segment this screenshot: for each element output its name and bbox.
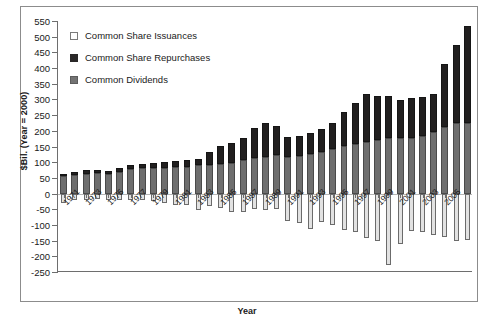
bar-segment-dividends[interactable] [150,168,157,194]
bar-segment-repurchases[interactable] [83,170,90,174]
bar-segment-dividends[interactable] [105,174,112,193]
bar-group[interactable] [296,21,303,271]
bar-segment-dividends[interactable] [352,144,359,194]
bar-segment-repurchases[interactable] [172,161,179,167]
bar-group[interactable] [441,21,448,271]
bar-group[interactable] [430,21,437,271]
bar-segment-repurchases[interactable] [307,133,314,154]
bar-segment-repurchases[interactable] [374,96,381,140]
bar-segment-dividends[interactable] [240,160,247,194]
bar-group[interactable] [228,21,235,271]
bar-group[interactable] [262,21,269,271]
bar-segment-repurchases[interactable] [341,112,348,146]
bar-segment-dividends[interactable] [217,164,224,194]
bar-segment-issuances[interactable] [465,194,470,240]
bar-segment-dividends[interactable] [408,138,415,194]
legend-item[interactable]: Common Share Issuances [70,30,210,41]
bar-segment-repurchases[interactable] [240,138,247,160]
bar-segment-dividends[interactable] [385,138,392,193]
bar-segment-repurchases[interactable] [318,129,325,152]
bar-segment-repurchases[interactable] [296,136,303,156]
bar-segment-repurchases[interactable] [60,174,67,177]
bar-group[interactable] [464,21,471,271]
bar-group[interactable] [307,21,314,271]
bar-segment-repurchases[interactable] [139,164,146,168]
bar-segment-dividends[interactable] [307,154,314,194]
bar-segment-repurchases[interactable] [441,64,448,127]
bar-segment-repurchases[interactable] [273,126,280,155]
bar-segment-repurchases[interactable] [161,162,168,168]
bar-group[interactable] [273,21,280,271]
bar-segment-dividends[interactable] [172,167,179,193]
bar-segment-dividends[interactable] [374,140,381,194]
bar-segment-repurchases[interactable] [184,160,191,167]
bar-segment-dividends[interactable] [464,123,471,194]
bar-segment-repurchases[interactable] [71,172,78,175]
bar-segment-repurchases[interactable] [262,123,269,156]
bar-group[interactable] [318,21,325,271]
bar-segment-dividends[interactable] [430,132,437,193]
bar-segment-repurchases[interactable] [385,96,392,139]
bar-segment-repurchases[interactable] [352,103,359,144]
bar-segment-repurchases[interactable] [206,152,213,165]
bar-segment-dividends[interactable] [453,123,460,194]
bar-group[interactable] [408,21,415,271]
bar-segment-dividends[interactable] [60,176,67,193]
chart-legend: Common Share IssuancesCommon Share Repur… [70,30,210,96]
bar-group[interactable] [385,21,392,271]
bar-segment-dividends[interactable] [284,157,291,194]
bar-segment-dividends[interactable] [329,149,336,194]
bar-segment-repurchases[interactable] [127,165,134,169]
bar-segment-dividends[interactable] [127,169,134,193]
bar-group[interactable] [217,21,224,271]
bar-group[interactable] [419,21,426,271]
bar-segment-repurchases[interactable] [116,168,123,172]
bar-segment-repurchases[interactable] [397,100,404,138]
bar-group[interactable] [60,21,67,271]
bar-group[interactable] [363,21,370,271]
y-axis-tick [52,209,58,210]
bar-segment-issuances[interactable] [386,194,391,266]
y-axis-tick-label: 350 [16,78,50,89]
y-axis-tick-label: -250 [16,267,50,278]
bar-segment-repurchases[interactable] [453,45,460,122]
legend-item[interactable]: Common Dividends [70,74,210,85]
bar-segment-repurchases[interactable] [217,146,224,164]
bar-segment-repurchases[interactable] [430,94,437,132]
bar-segment-dividends[interactable] [83,174,90,193]
bar-segment-repurchases[interactable] [150,163,157,168]
y-axis-tick-label: 400 [16,63,50,74]
bar-segment-dividends[interactable] [441,127,448,194]
y-axis-tick [52,99,58,100]
bar-group[interactable] [374,21,381,271]
bar-segment-repurchases[interactable] [94,170,101,173]
y-axis-tick-label: 500 [16,31,50,42]
bar-segment-repurchases[interactable] [408,98,415,138]
bar-segment-dividends[interactable] [419,136,426,193]
bar-segment-dividends[interactable] [397,138,404,193]
bar-segment-repurchases[interactable] [195,159,202,165]
bar-segment-repurchases[interactable] [329,123,336,149]
bar-group[interactable] [329,21,336,271]
bar-segment-repurchases[interactable] [251,128,258,158]
bar-segment-dividends[interactable] [195,165,202,193]
y-axis-tick [52,225,58,226]
bar-segment-repurchases[interactable] [419,97,426,137]
bar-segment-dividends[interactable] [363,142,370,194]
y-axis-tick [52,131,58,132]
bar-segment-repurchases[interactable] [105,171,112,174]
bar-group[interactable] [341,21,348,271]
bar-segment-repurchases[interactable] [284,137,291,156]
bar-group[interactable] [251,21,258,271]
bar-segment-repurchases[interactable] [363,94,370,142]
bar-group[interactable] [240,21,247,271]
y-axis-tick-label: 450 [16,47,50,58]
bar-segment-repurchases[interactable] [464,26,471,123]
bar-group[interactable] [284,21,291,271]
bar-group[interactable] [453,21,460,271]
bar-segment-dividends[interactable] [262,157,269,194]
legend-item[interactable]: Common Share Repurchases [70,52,210,63]
bar-group[interactable] [352,21,359,271]
bar-segment-repurchases[interactable] [228,143,235,163]
bar-group[interactable] [397,21,404,271]
